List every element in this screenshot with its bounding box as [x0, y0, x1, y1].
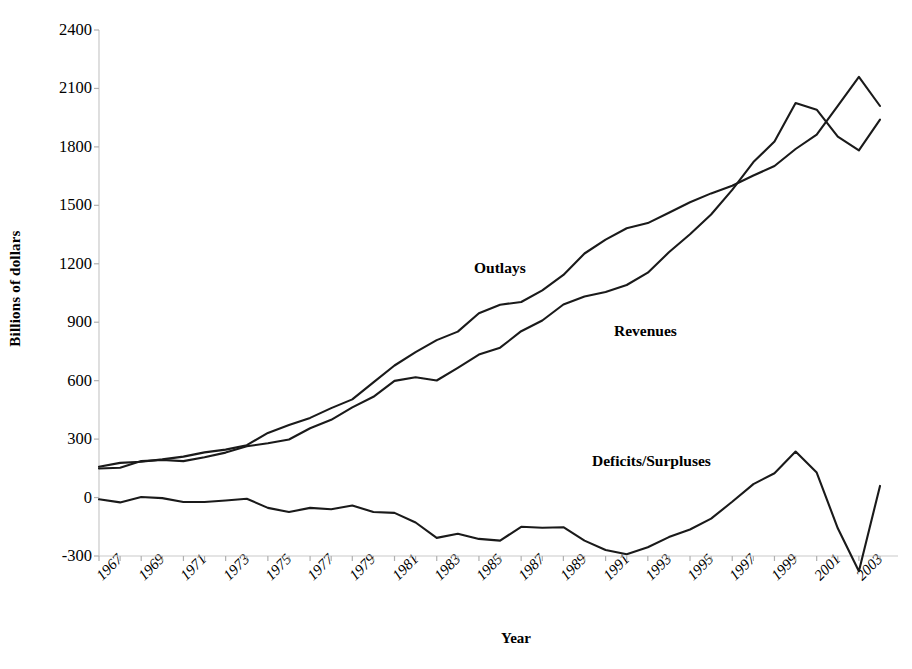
x-axis-title: Year [0, 630, 912, 647]
chart-figure: Billions of dollars 24002100180015001200… [0, 0, 912, 669]
tick-marks [94, 30, 880, 561]
data-series [99, 77, 880, 571]
series-label-outlays: Outlays [474, 259, 526, 277]
series-label-revenues: Revenues [614, 322, 677, 340]
axis-lines [99, 30, 898, 556]
series-line-revenues [99, 103, 880, 468]
series-line-deficits-surpluses [99, 452, 880, 572]
series-label-deficits: Deficits/Surpluses [592, 452, 711, 470]
plot-area [0, 0, 912, 669]
